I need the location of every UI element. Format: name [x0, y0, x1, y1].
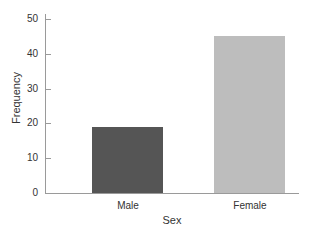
y-tick-label: 40 — [2, 49, 38, 59]
x-category-label: Female — [210, 201, 290, 211]
y-tick — [45, 19, 51, 20]
x-axis-title: Sex — [142, 214, 202, 226]
bar-chart: Frequency 01020304050 MaleFemale Sex — [0, 0, 310, 236]
y-tick-label: 10 — [2, 153, 38, 163]
bar-female — [214, 36, 285, 193]
y-tick — [45, 158, 51, 159]
y-tick-label: 20 — [2, 118, 38, 128]
x-axis-line — [45, 193, 299, 194]
y-tick — [45, 54, 51, 55]
bar-male — [92, 127, 163, 193]
y-axis-line — [45, 14, 46, 194]
y-tick-label: 50 — [2, 14, 38, 24]
y-tick — [45, 123, 51, 124]
y-tick-label: 0 — [2, 188, 38, 198]
y-tick — [45, 89, 51, 90]
x-category-label: Male — [88, 201, 168, 211]
y-tick-label: 30 — [2, 84, 38, 94]
